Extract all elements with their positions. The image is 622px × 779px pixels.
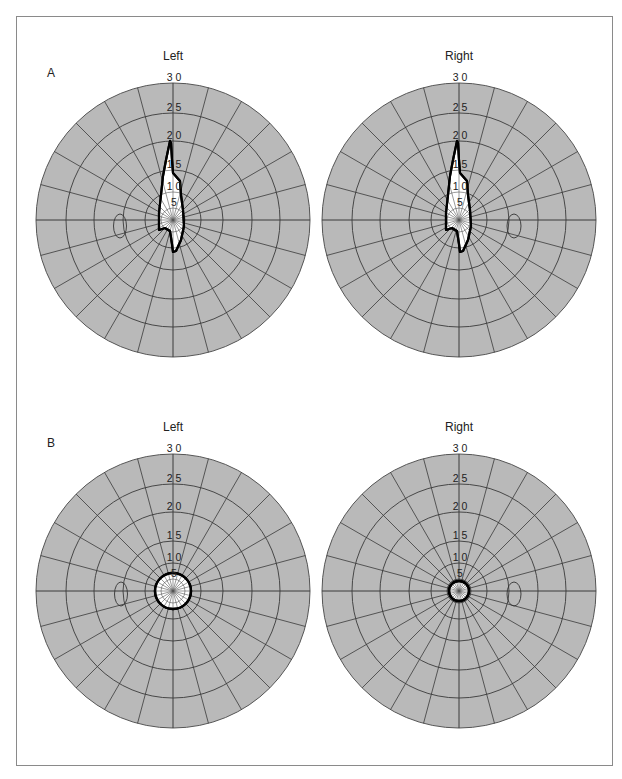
visual-field-a-left: 3 02 52 01 51 05	[36, 71, 310, 357]
ring-label: 2 5	[453, 472, 468, 484]
ring-label: 1 5	[167, 158, 182, 170]
ring-label: 2 5	[167, 472, 182, 484]
ring-label: 2 5	[167, 101, 182, 113]
ring-label: 1 5	[167, 529, 182, 541]
visual-field-b-right: 3 02 52 01 51 05	[322, 442, 596, 728]
visual-field-a-right: 3 02 52 01 51 05	[322, 71, 596, 357]
ring-label: 1 0	[167, 551, 182, 563]
ring-label: 5	[171, 567, 177, 579]
ring-label: 2 5	[453, 101, 468, 113]
ring-label: 5	[457, 567, 463, 579]
ring-label: 2 0	[167, 129, 182, 141]
ring-label: 5	[457, 196, 463, 208]
ring-label: 3 0	[453, 442, 468, 454]
ring-label: 1 0	[167, 180, 182, 192]
ring-label: 2 0	[167, 500, 182, 512]
ring-label: 3 0	[167, 71, 182, 83]
ring-label: 3 0	[167, 442, 182, 454]
ring-label: 1 5	[453, 158, 468, 170]
visual-field-b-left: 3 02 52 01 51 05	[36, 442, 310, 728]
ring-label: 2 0	[453, 129, 468, 141]
ring-label: 1 0	[453, 551, 468, 563]
ring-label: 3 0	[453, 71, 468, 83]
ring-label: 2 0	[453, 500, 468, 512]
ring-label: 1 0	[453, 180, 468, 192]
visual-field-diagrams: 3 02 52 01 51 053 02 52 01 51 053 02 52 …	[0, 0, 622, 779]
ring-label: 5	[171, 196, 177, 208]
ring-label: 1 5	[453, 529, 468, 541]
